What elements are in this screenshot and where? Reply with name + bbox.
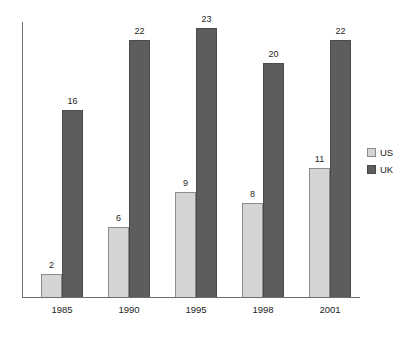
bar-value-label: 8 (250, 189, 255, 199)
plot-area: 2166229238201122 (22, 22, 360, 298)
bar-uk-1990[interactable]: 22 (129, 40, 150, 297)
bar-value-label: 6 (116, 213, 121, 223)
bar-value-label: 20 (268, 49, 278, 59)
x-axis-label-1995: 1995 (165, 304, 227, 316)
bar-uk-1995[interactable]: 23 (196, 28, 217, 297)
bar-value-label: 16 (67, 96, 77, 106)
bar-chart: 2166229238201122 19851990199519982001 US… (0, 0, 410, 337)
bar-group-1985: 216 (41, 22, 83, 297)
bar-group-2001: 1122 (309, 22, 351, 297)
bar-value-label: 23 (201, 14, 211, 24)
chart-legend: USUK (367, 145, 393, 179)
bar-us-2001[interactable]: 11 (309, 168, 330, 297)
x-axis-label-2001: 2001 (299, 304, 361, 316)
bar-pair: 923 (175, 22, 217, 297)
bar-group-1995: 923 (175, 22, 217, 297)
bar-pair: 216 (41, 22, 83, 297)
bar-us-1995[interactable]: 9 (175, 192, 196, 297)
x-axis-label-1990: 1990 (98, 304, 160, 316)
bar-value-label: 9 (183, 178, 188, 188)
legend-label: US (380, 148, 393, 158)
bar-pair: 1122 (309, 22, 351, 297)
bar-uk-2001[interactable]: 22 (330, 40, 351, 297)
bar-value-label: 22 (335, 26, 345, 36)
bar-value-label: 11 (315, 154, 324, 164)
bar-uk-1998[interactable]: 20 (263, 63, 284, 297)
bar-group-1990: 622 (108, 22, 150, 297)
y-axis-line (22, 22, 23, 298)
bar-value-label: 2 (49, 260, 54, 270)
bar-value-label: 22 (134, 26, 144, 36)
x-axis-line (22, 297, 360, 298)
legend-label: UK (380, 165, 393, 175)
bar-pair: 622 (108, 22, 150, 297)
legend-item-us[interactable]: US (367, 145, 393, 160)
bar-pair: 820 (242, 22, 284, 297)
bar-uk-1985[interactable]: 16 (62, 110, 83, 297)
legend-swatch-uk-icon (367, 165, 376, 174)
x-axis-label-1985: 1985 (31, 304, 93, 316)
legend-item-uk[interactable]: UK (367, 162, 393, 177)
x-axis-label-1998: 1998 (232, 304, 294, 316)
bar-us-1990[interactable]: 6 (108, 227, 129, 297)
bar-us-1998[interactable]: 8 (242, 203, 263, 297)
bar-us-1985[interactable]: 2 (41, 274, 62, 297)
bar-group-1998: 820 (242, 22, 284, 297)
legend-swatch-us-icon (367, 148, 376, 157)
